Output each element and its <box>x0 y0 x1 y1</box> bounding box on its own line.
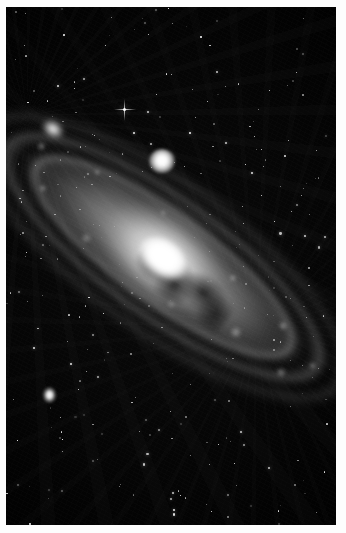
galaxy-outer-halo <box>6 51 336 463</box>
dust-lane-inner <box>6 110 336 404</box>
photograph-root: Andromeda Galaxy (M31) <box>0 0 346 533</box>
hii-region-knots <box>6 70 336 444</box>
spiral-arm-middle <box>6 93 336 420</box>
galaxy-luminous-disc <box>6 88 336 426</box>
galaxy-m31 <box>6 7 336 525</box>
galaxy-central-bulge <box>62 162 264 351</box>
core-dust-mottling <box>127 234 243 336</box>
photo-frame <box>6 7 336 525</box>
galaxy-nucleus <box>125 221 200 292</box>
dust-lane-outer <box>6 80 336 435</box>
spiral-arm-outer <box>6 66 336 448</box>
spiral-arm-inner <box>6 125 320 390</box>
